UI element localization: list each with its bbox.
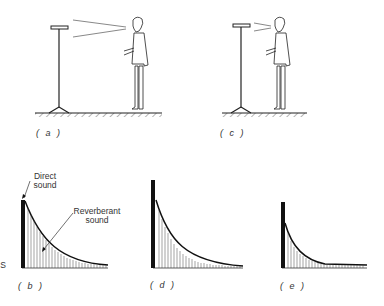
panel-label-d: ( d ) — [150, 280, 176, 290]
sound-cone — [73, 20, 126, 37]
decay-plot-d — [151, 180, 243, 268]
direct-sound-annotation: Direct sound — [28, 172, 62, 190]
speaker-figure — [266, 17, 290, 109]
microphone-stand — [49, 26, 69, 113]
decay-plot-e — [281, 202, 367, 268]
reverb-hatching — [159, 210, 240, 268]
reverberant-sound-line2: sound — [70, 216, 124, 225]
scene-a — [35, 17, 162, 117]
direct-sound-line2: sound — [28, 181, 62, 190]
speaker-figure — [124, 17, 148, 109]
reverberant-curve — [156, 200, 243, 266]
direct-sound-bar — [21, 200, 25, 268]
scene-c — [222, 17, 307, 117]
left-edge-fragment: S — [0, 261, 6, 270]
microphone-stand — [231, 24, 251, 113]
sound-cone — [254, 23, 271, 31]
direct-sound-bar — [151, 180, 155, 268]
panel-label-e: ( e ) — [280, 281, 306, 291]
panel-label-c: ( c ) — [220, 128, 246, 138]
reverberant-curve — [285, 223, 367, 265]
reverberant-sound-annotation: Reverberant sound — [70, 207, 124, 225]
reverberant-pointer — [44, 213, 73, 249]
figure-canvas — [0, 0, 384, 306]
direct-sound-bar — [281, 202, 285, 268]
panel-label-a: ( a ) — [36, 128, 62, 138]
panel-label-b: ( b ) — [18, 281, 44, 291]
